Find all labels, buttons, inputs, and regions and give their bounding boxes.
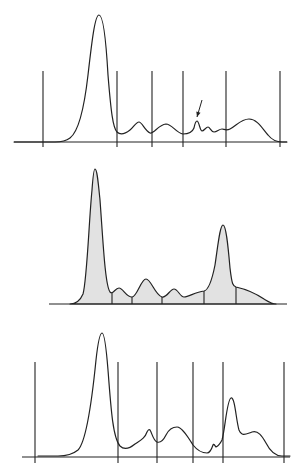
trace-line — [38, 333, 290, 456]
trace-line — [14, 15, 287, 142]
figure-canvas — [0, 0, 298, 476]
densitometry-figure — [0, 0, 298, 476]
arrow-head-icon — [196, 112, 200, 117]
panel-top — [14, 15, 287, 147]
trace-area — [70, 169, 276, 304]
panel-middle — [49, 169, 287, 304]
panel-bottom — [22, 333, 290, 463]
